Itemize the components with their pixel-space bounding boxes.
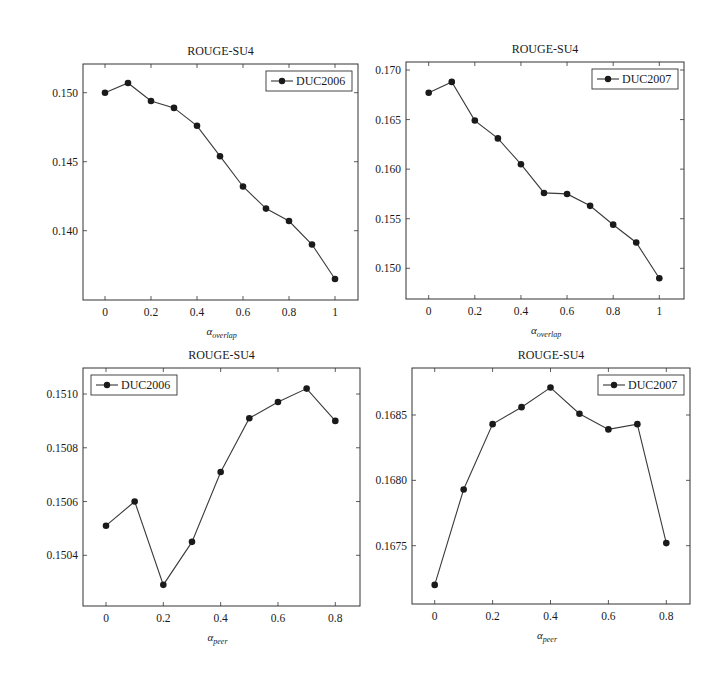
x-tick-label: 0.2 (144, 306, 159, 318)
chart-bottom-right: ROUGE-SU400.20.40.60.80.16750.16800.1685… (375, 348, 690, 644)
data-point-marker (448, 79, 455, 86)
plot-frame (83, 368, 360, 606)
x-tick-label: 0.6 (560, 305, 575, 317)
chart-bottom-left: ROUGE-SU400.20.40.60.80.15040.15060.1508… (46, 348, 360, 646)
data-point-marker (332, 418, 339, 425)
data-point-marker (103, 522, 110, 529)
x-tick-label: 0.6 (601, 610, 616, 622)
data-point-marker (460, 486, 467, 493)
legend: DUC2007 (598, 375, 684, 395)
y-tick-label: 0.1510 (46, 388, 78, 400)
data-point-marker (160, 582, 167, 589)
legend-marker-icon (279, 78, 285, 84)
data-line (429, 82, 660, 278)
x-tick-label: 1 (656, 305, 662, 317)
x-tick-label: 0.8 (606, 305, 621, 317)
x-tick-label: 0 (103, 612, 109, 624)
data-point-marker (189, 539, 196, 546)
y-tick-label: 0.140 (52, 225, 78, 237)
data-point-marker (171, 105, 178, 112)
data-point-marker (275, 399, 282, 406)
legend-marker-icon (605, 76, 611, 82)
data-point-marker (489, 421, 496, 428)
chart-title: ROUGE-SU4 (188, 348, 255, 362)
x-tick-label: 0 (102, 306, 108, 318)
data-point-marker (472, 117, 479, 124)
chart-top-right: ROUGE-SU400.20.40.60.810.1500.1550.1600.… (375, 42, 684, 339)
chart-title: ROUGE-SU4 (512, 42, 579, 56)
data-point-marker (564, 191, 571, 198)
legend: DUC2007 (592, 69, 678, 89)
x-tick-label: 0.2 (156, 612, 171, 624)
data-point-marker (148, 98, 155, 105)
chart-title: ROUGE-SU4 (187, 44, 254, 58)
data-point-marker (332, 276, 339, 283)
y-tick-label: 0.1506 (46, 496, 78, 508)
x-tick-label: 0.8 (282, 306, 297, 318)
y-tick-label: 0.155 (375, 213, 401, 225)
data-point-marker (431, 582, 438, 589)
figure-canvas: ROUGE-SU400.20.40.60.810.1400.1450.150αo… (0, 0, 726, 675)
chart-top-left: ROUGE-SU400.20.40.60.810.1400.1450.150αo… (52, 44, 358, 340)
x-tick-label: 0.8 (328, 612, 343, 624)
data-point-marker (656, 275, 663, 282)
legend-label: DUC2007 (622, 72, 671, 86)
y-tick-label: 0.145 (52, 156, 78, 168)
x-tick-label: 0.6 (271, 612, 286, 624)
x-axis-label: αpeer (208, 631, 229, 646)
data-line (435, 388, 667, 585)
legend-label: DUC2006 (296, 74, 345, 88)
y-tick-label: 0.150 (375, 262, 401, 274)
legend-label: DUC2006 (121, 378, 170, 392)
x-tick-label: 0 (432, 610, 438, 622)
legend-label: DUC2007 (628, 378, 677, 392)
data-point-marker (246, 415, 253, 422)
data-point-marker (587, 203, 594, 210)
x-tick-label: 0.8 (659, 610, 674, 622)
data-point-marker (131, 498, 138, 505)
legend-marker-icon (611, 382, 617, 388)
y-tick-label: 0.170 (375, 64, 401, 76)
x-tick-label: 0.2 (468, 305, 483, 317)
data-point-marker (102, 89, 109, 96)
data-point-marker (194, 123, 201, 130)
data-point-marker (605, 426, 612, 433)
data-point-marker (518, 404, 525, 411)
legend: DUC2006 (266, 71, 352, 91)
data-point-marker (425, 90, 432, 97)
x-tick-label: 0.4 (514, 305, 529, 317)
x-axis-label: αoverlap (207, 325, 237, 340)
y-tick-label: 0.1680 (375, 474, 407, 486)
legend: DUC2006 (91, 375, 177, 395)
plot-frame (412, 368, 690, 604)
y-tick-label: 0.1504 (46, 549, 78, 561)
data-point-marker (634, 421, 641, 428)
data-point-marker (286, 218, 293, 225)
data-point-marker (217, 153, 224, 160)
x-tick-label: 0.4 (190, 306, 205, 318)
y-tick-label: 0.1675 (375, 540, 407, 552)
data-line (106, 389, 335, 585)
y-tick-label: 0.160 (375, 163, 401, 175)
chart-title: ROUGE-SU4 (518, 348, 585, 362)
x-axis-label: αoverlap (531, 324, 561, 339)
plot-frame (406, 62, 684, 299)
x-tick-label: 0.4 (543, 610, 558, 622)
data-point-marker (518, 161, 525, 168)
x-tick-label: 1 (332, 306, 338, 318)
data-point-marker (217, 469, 224, 476)
data-point-marker (610, 221, 617, 228)
data-point-marker (663, 540, 670, 547)
data-point-marker (576, 410, 583, 417)
x-tick-label: 0.4 (213, 612, 228, 624)
data-point-marker (263, 205, 270, 212)
y-tick-label: 0.1685 (375, 409, 407, 421)
data-point-marker (547, 384, 554, 391)
y-tick-label: 0.165 (375, 114, 401, 126)
plot-frame (83, 64, 358, 300)
x-tick-label: 0.2 (485, 610, 500, 622)
x-tick-label: 0 (426, 305, 432, 317)
data-point-marker (541, 190, 548, 197)
data-line (105, 83, 335, 279)
data-point-marker (240, 183, 247, 190)
